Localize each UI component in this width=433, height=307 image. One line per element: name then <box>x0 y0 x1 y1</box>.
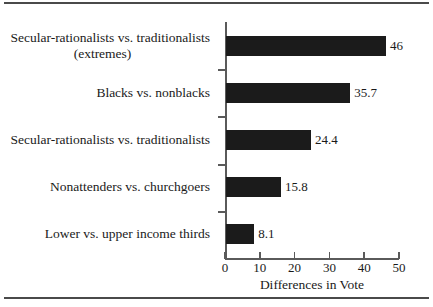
bar <box>226 83 350 103</box>
category-label-line: Lower vs. upper income thirds <box>45 226 210 241</box>
y-axis-tick <box>218 69 225 71</box>
category-label-line: Secular-rationalists vs. traditionalists <box>10 30 210 45</box>
bar <box>226 130 311 150</box>
x-axis-tick <box>294 252 296 259</box>
x-axis-tick <box>224 252 226 259</box>
y-axis-tick <box>218 164 225 166</box>
y-axis-tick <box>218 211 225 213</box>
bar <box>226 36 386 56</box>
x-axis-tick <box>363 252 365 259</box>
x-axis-tick <box>398 252 400 259</box>
x-axis-tick-label: 50 <box>384 260 414 276</box>
bar-value-label: 35.7 <box>350 83 377 103</box>
category-label: Secular-rationalists vs. traditionalists <box>0 132 210 148</box>
x-axis-tick <box>259 252 261 259</box>
x-axis-title: Differences in Vote <box>225 277 399 293</box>
bar <box>226 177 281 197</box>
category-label-line: (extremes) <box>0 46 210 62</box>
bar-chart-plot-area: 01020304050 4635.724.415.88.1 Secular-ra… <box>0 0 433 307</box>
bar <box>226 224 254 244</box>
x-axis-tick-label: 40 <box>349 260 379 276</box>
category-label: Nonattenders vs. churchgoers <box>0 179 210 195</box>
category-label-line: Nonattenders vs. churchgoers <box>50 179 210 194</box>
category-label: Secular-rationalists vs. traditionalists… <box>0 30 210 62</box>
x-axis-tick-label: 10 <box>245 260 275 276</box>
category-label-line: Secular-rationalists vs. traditionalists <box>10 132 210 147</box>
x-axis-tick-label: 30 <box>314 260 344 276</box>
bar-value-label: 24.4 <box>311 130 338 150</box>
bar-value-label: 46 <box>386 36 403 56</box>
x-axis-tick-label: 0 <box>210 260 240 276</box>
figure-container: 01020304050 4635.724.415.88.1 Secular-ra… <box>0 0 433 307</box>
bar-value-label: 8.1 <box>254 224 274 244</box>
category-label: Lower vs. upper income thirds <box>0 226 210 242</box>
category-label: Blacks vs. nonblacks <box>0 85 210 101</box>
category-label-line: Blacks vs. nonblacks <box>96 85 210 100</box>
y-axis-tick <box>218 116 225 118</box>
bar-value-label: 15.8 <box>281 177 308 197</box>
x-axis-tick <box>329 252 331 259</box>
x-axis-tick-label: 20 <box>280 260 310 276</box>
